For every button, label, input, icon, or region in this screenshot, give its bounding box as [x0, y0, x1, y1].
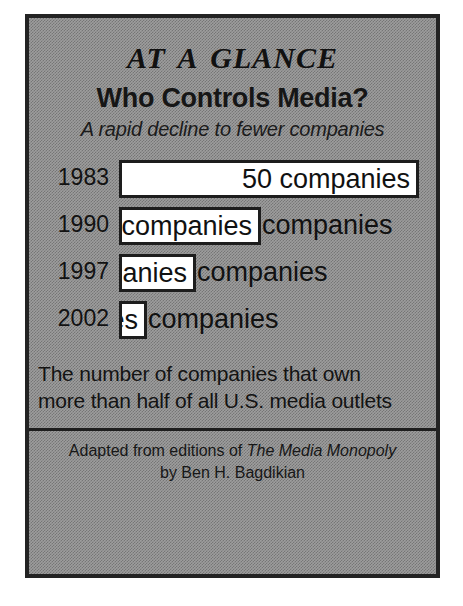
bar-value-label: 23 companies — [119, 210, 252, 243]
credit-block: Adapted from editions of The Media Monop… — [29, 440, 436, 484]
bar-row: 1997 10 companies companies — [29, 252, 436, 299]
bar-unit-label: companies — [148, 303, 279, 336]
infographic-panel: At a Glance Who Controls Media? A rapid … — [25, 14, 440, 578]
bar-unit-label: companies — [262, 209, 393, 242]
page-kicker: At a Glance — [29, 31, 436, 77]
caption-line-2: more than half of all U.S. media outlets — [38, 387, 436, 414]
credit-book-title: The Media Monopoly — [247, 442, 396, 459]
credit-prefix: Adapted from editions of — [69, 442, 242, 459]
bar-row: 1983 50 companies — [29, 158, 436, 205]
bar-fill: 23 companies — [119, 207, 261, 245]
bar-fill: 10 companies — [119, 254, 196, 292]
bar-fill: 6 companies — [119, 301, 147, 339]
caption-line-1: The number of companies that own — [38, 360, 436, 387]
bar-value-label: 50 companies — [242, 163, 410, 196]
bar-row: 2002 6 companies companies — [29, 299, 436, 346]
bar-chart: 1983 50 companies 1990 23 companies comp… — [29, 158, 436, 346]
credit-source-line: Adapted from editions of The Media Monop… — [29, 440, 436, 462]
bar-fill: 50 companies — [119, 160, 419, 198]
bar-year-label: 1997 — [29, 252, 109, 290]
footer-divider — [29, 428, 436, 431]
bar-row: 1990 23 companies companies — [29, 205, 436, 252]
credit-author: by Ben H. Bagdikian — [29, 462, 436, 484]
caption-block: The number of companies that own more th… — [38, 360, 436, 414]
page-title: Who Controls Media? — [29, 83, 436, 113]
bar-year-label: 2002 — [29, 299, 109, 337]
bar-year-label: 1983 — [29, 158, 109, 196]
bar-year-label: 1990 — [29, 205, 109, 243]
bar-value-label: 10 companies — [119, 257, 187, 290]
page-tagline: A rapid decline to fewer companies — [29, 118, 436, 141]
bar-value-label: 6 companies — [119, 304, 138, 337]
bar-unit-label: companies — [197, 256, 328, 289]
